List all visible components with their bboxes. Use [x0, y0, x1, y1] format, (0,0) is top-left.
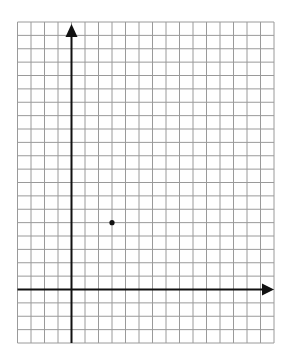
- coordinate-plane: [0, 0, 289, 360]
- grid-lines: [18, 22, 275, 343]
- y-axis-arrowhead: [66, 24, 78, 37]
- data-point: [109, 220, 114, 225]
- x-axis-arrowhead: [262, 284, 274, 296]
- axes: [18, 24, 275, 343]
- data-points: [109, 220, 114, 225]
